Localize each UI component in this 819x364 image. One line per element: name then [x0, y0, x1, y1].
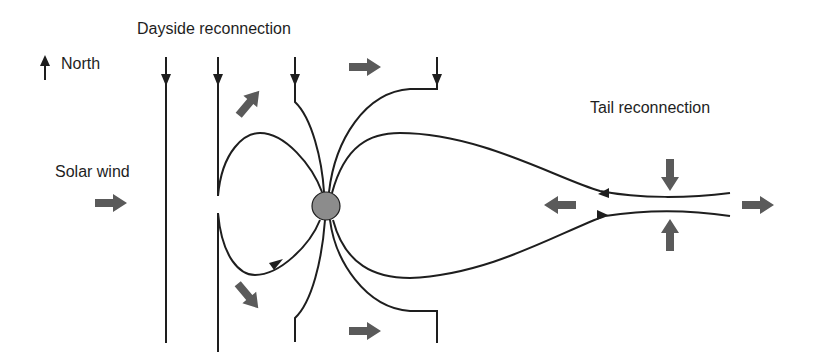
flow-arrow-bottom-icon [349, 322, 381, 340]
earth [312, 192, 340, 220]
flow-arrow-ne-icon [232, 85, 266, 121]
dayside-closed-line-south [218, 213, 320, 275]
dayside-closed-line-north [218, 133, 322, 196]
flow-arrow-se-icon [231, 278, 265, 314]
plasma-flow-arrows [95, 58, 774, 340]
flow-arrow-inflow-north-icon [661, 159, 679, 191]
open-line-south-2 [330, 220, 437, 343]
magnetosphere-diagram [0, 0, 819, 364]
north-arrow-icon [40, 55, 50, 80]
flow-arrow-top-icon [349, 58, 381, 76]
open-line-north-1 [295, 57, 324, 192]
solar-wind-flow-arrow-icon [95, 194, 127, 212]
flow-arrow-earthward-icon [544, 196, 576, 214]
flow-arrow-tailward-icon [742, 196, 774, 214]
flow-arrow-inflow-south-icon [661, 219, 679, 251]
open-line-north-2 [329, 57, 437, 192]
